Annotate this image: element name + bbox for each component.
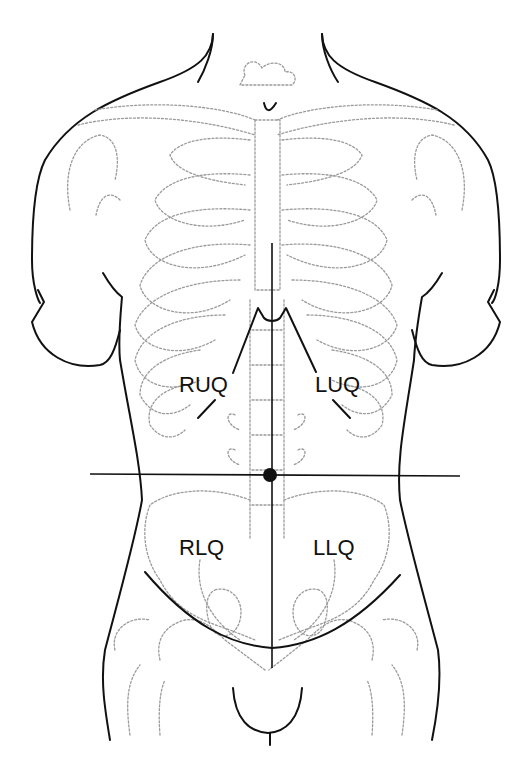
quadrant-lines	[90, 243, 460, 668]
body-outline	[32, 34, 500, 745]
label-luq: LUQ	[315, 372, 360, 398]
label-rlq: RLQ	[179, 535, 224, 561]
umbilicus-marker	[263, 468, 277, 482]
label-llq: LLQ	[313, 535, 355, 561]
torso-diagram	[0, 0, 532, 761]
label-ruq: RUQ	[179, 372, 228, 398]
